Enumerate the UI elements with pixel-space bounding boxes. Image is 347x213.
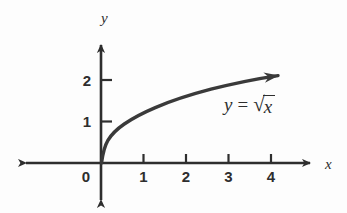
- x-tick-label-3: 3: [221, 169, 237, 184]
- y-axis-label: y: [101, 11, 108, 26]
- x-tick-label-2: 2: [178, 169, 194, 184]
- equation-lhs: y: [224, 95, 232, 114]
- x-tick-label-1: 1: [136, 169, 152, 184]
- equation-radicand: x: [263, 95, 275, 116]
- plot-canvas: [0, 0, 347, 213]
- origin-tick-label: 0: [78, 169, 94, 184]
- x-tick-label-4: 4: [263, 169, 279, 184]
- equation-operator: =: [237, 95, 248, 114]
- square-root-expression: √ x: [253, 95, 275, 116]
- y-tick-label-1: 1: [79, 114, 95, 129]
- y-tick-label-2: 2: [79, 73, 95, 88]
- x-axis-label: x: [325, 157, 332, 172]
- sqrt-function-graph-figure: y x 0 1 2 3 4 1 2 y = √ x: [0, 0, 347, 213]
- curve-equation-annotation: y = √ x: [224, 95, 275, 116]
- sqrt-curve: [102, 76, 279, 163]
